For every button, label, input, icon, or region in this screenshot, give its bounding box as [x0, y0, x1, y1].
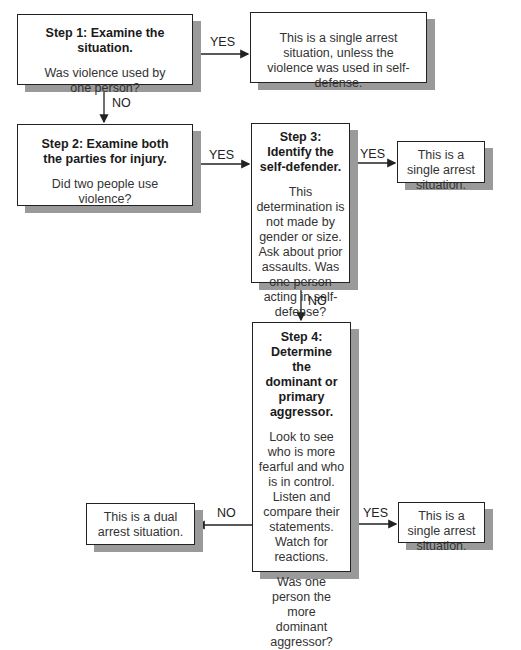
- edge-label-step4-no: NO: [217, 506, 236, 520]
- edge-label-step3-no: NO: [308, 294, 327, 308]
- outcome1-box: This is a single arrest situation, unles…: [250, 12, 427, 83]
- outcome4-yes-text: This is a single arrest situation.: [402, 509, 481, 554]
- outcome4-no-box: This is a dual arrest situation.: [86, 503, 195, 545]
- step3-title: Step 3: Identify the self-defender.: [256, 130, 345, 175]
- step3-box: Step 3: Identify the self-defender. This…: [251, 123, 350, 283]
- step1-title: Step 1: Examine the situation.: [18, 26, 192, 56]
- step2-box: Step 2: Examine both the parties for inj…: [17, 124, 193, 206]
- step3-question: This determination is not made by gender…: [256, 185, 345, 320]
- step4-guidance: Look to see who is more fearful and who …: [256, 430, 347, 565]
- outcome4-yes-box: This is a single arrest situation.: [398, 502, 485, 543]
- step4-question: Was one person the more dominant aggress…: [256, 575, 347, 650]
- step1-box: Step 1: Examine the situation. Was viole…: [17, 14, 193, 85]
- edge-label-step1-no: NO: [112, 96, 131, 110]
- edge-label-step1-yes: YES: [210, 35, 235, 49]
- outcome4-no-text: This is a dual arrest situation.: [93, 510, 188, 540]
- step2-question: Did two people use violence?: [36, 177, 174, 207]
- step2-title: Step 2: Examine both the parties for inj…: [36, 137, 174, 167]
- step4-box: Step 4: Determine the dominant or primar…: [252, 322, 351, 572]
- outcome3-box: This is a single arrest situation.: [397, 141, 485, 183]
- step4-title: Step 4: Determine the dominant or primar…: [256, 330, 347, 420]
- outcome1-text: This is a single arrest situation, unles…: [265, 31, 412, 91]
- edge-label-step4-yes: YES: [363, 506, 388, 520]
- edge-label-step3-yes: YES: [360, 147, 385, 161]
- step1-question: Was violence used by one person?: [18, 66, 192, 96]
- outcome3-text: This is a single arrest situation.: [401, 148, 481, 193]
- edge-label-step2-yes: YES: [209, 148, 234, 162]
